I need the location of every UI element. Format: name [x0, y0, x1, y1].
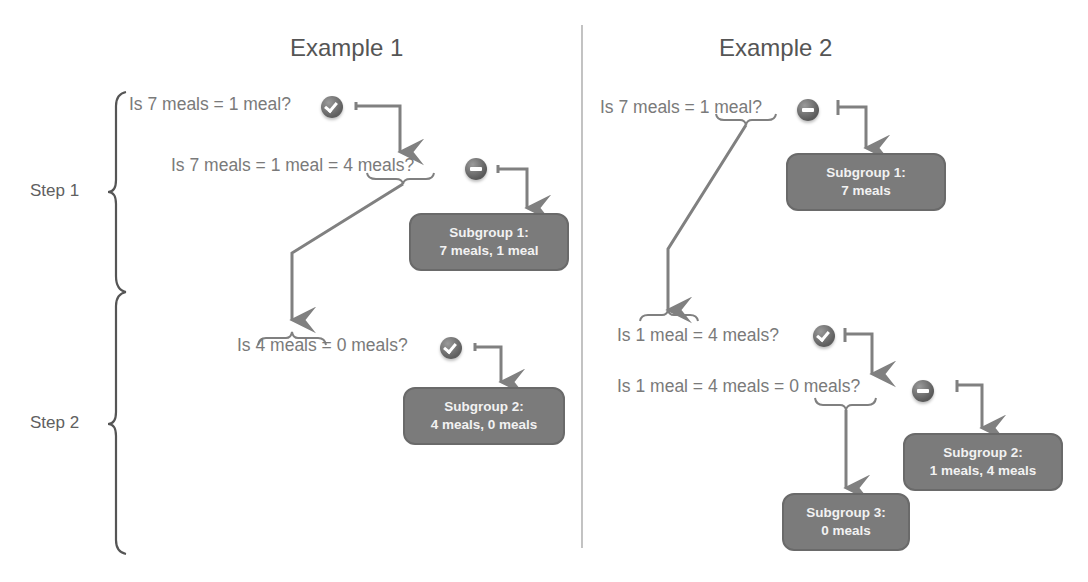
- ex2-question-2: Is 1 meal = 4 meals?: [617, 325, 779, 346]
- step1-label: Step 1: [30, 181, 79, 201]
- subgroup-title: Subgroup 2:: [905, 444, 1061, 462]
- check-icon: [440, 337, 462, 359]
- ex1-question-2: Is 7 meals = 1 meal = 4 meals?: [171, 155, 414, 176]
- check-icon: [813, 325, 835, 347]
- ex2-brace-q3: [815, 398, 876, 410]
- ex2-question-1: Is 7 meals = 1 meal?: [600, 97, 762, 118]
- ex1-arrow-q2-sg1: [498, 165, 527, 208]
- minus-icon: [465, 158, 487, 180]
- ex2-brace-q2: [640, 310, 698, 321]
- ex2-subgroup-1: Subgroup 1: 7 meals: [786, 153, 946, 211]
- step1-brace: [108, 92, 126, 292]
- minus-icon: [797, 99, 819, 121]
- ex1-question-3: Is 4 meals = 0 meals?: [237, 335, 408, 356]
- subgroup-contents: 7 meals: [788, 182, 944, 200]
- ex1-arrow-q3-sg2: [475, 343, 501, 382]
- subgroup-title: Subgroup 1:: [411, 224, 567, 242]
- subgroup-contents: 0 meals: [784, 522, 908, 540]
- ex1-question-1: Is 7 meals = 1 meal?: [129, 94, 291, 115]
- minus-icon: [912, 380, 934, 402]
- subgroup-title: Subgroup 1:: [788, 164, 944, 182]
- step2-label: Step 2: [30, 413, 79, 433]
- example2-title: Example 2: [719, 34, 832, 62]
- diagram-connectors: [0, 0, 1088, 582]
- ex2-subgroup-3: Subgroup 3: 0 meals: [782, 493, 910, 551]
- subgroup-contents: 1 meals, 4 meals: [905, 462, 1061, 480]
- subgroup-contents: 7 meals, 1 meal: [411, 242, 567, 260]
- ex2-arrow-q1-sg1: [838, 100, 866, 148]
- step2-brace: [108, 292, 126, 554]
- ex2-arrow-q3-sg2: [957, 380, 982, 428]
- subgroup-contents: 4 meals, 0 meals: [405, 416, 563, 434]
- subgroup-title: Subgroup 2:: [405, 398, 563, 416]
- ex2-question-3: Is 1 meal = 4 meals = 0 meals?: [617, 376, 860, 397]
- check-icon: [321, 96, 343, 118]
- ex1-arrow-q2-q3: [292, 184, 403, 320]
- ex2-subgroup-2: Subgroup 2: 1 meals, 4 meals: [903, 433, 1063, 491]
- ex2-arrow-q2-q3: [845, 328, 872, 374]
- subgroup-title: Subgroup 3:: [784, 504, 908, 522]
- ex1-subgroup-1: Subgroup 1: 7 meals, 1 meal: [409, 213, 569, 271]
- ex1-arrow-q1-q2: [356, 102, 400, 152]
- example1-title: Example 1: [290, 34, 403, 62]
- ex1-subgroup-2: Subgroup 2: 4 meals, 0 meals: [403, 387, 565, 445]
- ex2-arrow-q1-q2: [668, 125, 746, 310]
